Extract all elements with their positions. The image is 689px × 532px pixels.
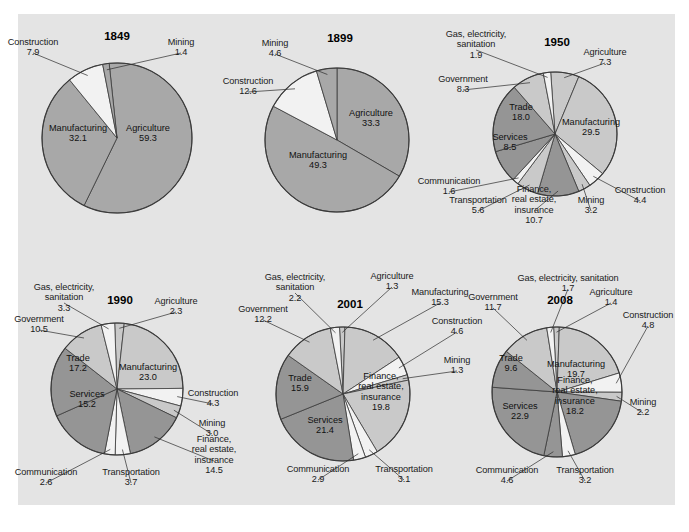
slice-label: Services 22.9	[502, 401, 537, 422]
label-leader-line	[616, 326, 648, 383]
figure-panel: 1849Agriculture 59.3Manufacturing 32.1Co…	[18, 14, 675, 505]
slice-label: Gas, electricity, sanitation 1.7	[517, 273, 618, 294]
chart-year-title: 2008	[547, 294, 573, 306]
slice-label: Finance, real estate, insurance 18.2	[552, 375, 597, 416]
slice-label: Mining 2.2	[630, 397, 656, 418]
slice-label: Construction 4.8	[623, 310, 673, 331]
pie-2008	[18, 14, 675, 505]
slice-label: Trade 9.6	[499, 353, 523, 374]
label-leader-line	[493, 308, 527, 340]
label-leader-line	[557, 303, 612, 332]
slice-label: Communication 4.6	[476, 465, 539, 486]
slice-label: Government 11.7	[468, 292, 518, 313]
slice-label: Transportation 3.2	[556, 465, 614, 486]
